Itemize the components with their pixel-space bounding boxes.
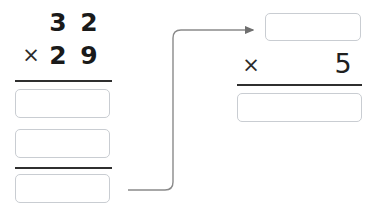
right-answer-box[interactable] (237, 93, 362, 122)
left-multiplication-operator: × (20, 45, 42, 66)
left-lower-rule (15, 167, 112, 169)
multiplier-tens-digit: 2 (47, 43, 69, 68)
multiplicand-ones-digit: 2 (78, 10, 100, 35)
right-rule (237, 84, 362, 86)
left-total-box[interactable] (15, 174, 110, 203)
multiplication-worksheet: 3 2 × 2 9 × 5 (0, 0, 382, 223)
left-upper-rule (15, 80, 112, 82)
partial-product-box-2[interactable] (15, 129, 110, 158)
multiplicand-tens-digit: 3 (47, 10, 69, 35)
carried-value-box[interactable] (265, 13, 361, 41)
partial-product-box-1[interactable] (15, 89, 110, 118)
right-multiplier-digit: 5 (330, 50, 356, 77)
right-multiplication-operator: × (240, 55, 262, 76)
multiplier-ones-digit: 9 (78, 43, 100, 68)
